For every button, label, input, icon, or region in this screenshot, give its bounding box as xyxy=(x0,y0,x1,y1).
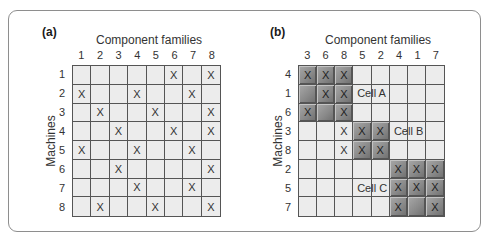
matrix-cell xyxy=(426,122,444,141)
matrix-cell xyxy=(165,179,183,198)
matrix-cell xyxy=(183,122,201,141)
matrix-cell: X xyxy=(73,141,91,160)
matrix-cell: X xyxy=(426,160,444,179)
panel-a-matrix: XXXXXXXXXXXXXXXXXXXXX xyxy=(72,65,221,217)
column-label: 4 xyxy=(390,49,408,61)
matrix-cell xyxy=(390,104,408,123)
matrix-cell xyxy=(335,160,353,179)
matrix-cell xyxy=(426,141,444,160)
matrix-cell xyxy=(73,197,91,216)
matrix-cell xyxy=(147,141,165,160)
matrix-cell xyxy=(110,179,128,198)
matrix-cell xyxy=(165,197,183,216)
matrix-cell: X xyxy=(202,160,220,179)
column-label: 7 xyxy=(184,49,203,61)
matrix-cell xyxy=(91,85,109,104)
matrix-cell xyxy=(128,160,146,179)
matrix-cell xyxy=(91,141,109,160)
matrix-cell xyxy=(147,160,165,179)
matrix-cell xyxy=(110,104,128,123)
panel-b-y-title: Machines xyxy=(271,115,285,166)
matrix-cell: X xyxy=(183,179,201,198)
row-label: 3 xyxy=(282,125,294,137)
matrix-cell xyxy=(299,160,317,179)
row-label: 5 xyxy=(282,182,294,194)
matrix-cell: X xyxy=(299,104,317,123)
matrix-cell xyxy=(390,66,408,85)
matrix-cell: X xyxy=(390,160,408,179)
matrix-cell xyxy=(408,197,426,216)
row-label: 2 xyxy=(56,87,68,99)
matrix-cell: X xyxy=(73,85,91,104)
column-label: 6 xyxy=(165,49,184,61)
matrix-cell xyxy=(408,104,426,123)
matrix-cell xyxy=(165,104,183,123)
row-label: 1 xyxy=(282,87,294,99)
column-label: 5 xyxy=(353,49,371,61)
matrix-cell: X xyxy=(317,85,335,104)
matrix-cell xyxy=(353,104,371,123)
row-label: 8 xyxy=(282,144,294,156)
row-label: 2 xyxy=(282,163,294,175)
matrix-cell: X xyxy=(408,160,426,179)
matrix-cell xyxy=(353,66,371,85)
matrix-cell xyxy=(372,197,390,216)
panel-a-y-title: Machines xyxy=(44,115,58,166)
matrix-cell xyxy=(317,179,335,198)
matrix-cell: X xyxy=(110,122,128,141)
matrix-cell xyxy=(299,85,317,104)
column-label: 6 xyxy=(316,49,334,61)
matrix-cell xyxy=(73,179,91,198)
column-label: 7 xyxy=(427,49,445,61)
matrix-cell xyxy=(317,104,335,123)
matrix-cell xyxy=(91,160,109,179)
row-label: 7 xyxy=(56,182,68,194)
matrix-cell: X xyxy=(202,197,220,216)
matrix-cell: X xyxy=(426,179,444,198)
matrix-cell xyxy=(110,85,128,104)
matrix-cell xyxy=(335,197,353,216)
matrix-cell xyxy=(73,66,91,85)
matrix-cell xyxy=(299,197,317,216)
matrix-cell: X xyxy=(335,122,353,141)
matrix-cell: X xyxy=(147,197,165,216)
matrix-cell xyxy=(147,85,165,104)
matrix-cell: X xyxy=(165,122,183,141)
matrix-cell xyxy=(353,197,371,216)
matrix-cell xyxy=(299,122,317,141)
matrix-cell: X xyxy=(183,141,201,160)
matrix-cell xyxy=(128,197,146,216)
matrix-cell xyxy=(73,104,91,123)
matrix-cell: X xyxy=(91,197,109,216)
matrix-cell: X xyxy=(128,179,146,198)
matrix-cell xyxy=(390,85,408,104)
matrix-cell: X xyxy=(202,104,220,123)
matrix-cell xyxy=(73,122,91,141)
matrix-cell xyxy=(317,197,335,216)
matrix-cell: X xyxy=(335,66,353,85)
cell-group-label: Cell C xyxy=(357,182,387,194)
matrix-cell: X xyxy=(299,66,317,85)
matrix-cell: X xyxy=(165,66,183,85)
matrix-cell: X xyxy=(390,197,408,216)
matrix-cell xyxy=(91,179,109,198)
matrix-cell: X xyxy=(183,85,201,104)
matrix-cell: X xyxy=(110,160,128,179)
cell-group-label: Cell A xyxy=(357,87,386,99)
matrix-cell xyxy=(408,85,426,104)
column-label: 4 xyxy=(128,49,147,61)
matrix-cell: X xyxy=(335,85,353,104)
row-label: 8 xyxy=(56,201,68,213)
column-label: 2 xyxy=(91,49,110,61)
matrix-cell: X xyxy=(372,122,390,141)
matrix-cell xyxy=(183,66,201,85)
matrix-cell xyxy=(183,104,201,123)
row-label: 5 xyxy=(56,144,68,156)
matrix-cell: X xyxy=(390,179,408,198)
matrix-cell xyxy=(165,141,183,160)
column-label: 3 xyxy=(109,49,128,61)
row-label: 4 xyxy=(282,68,294,80)
matrix-cell xyxy=(353,160,371,179)
matrix-cell xyxy=(317,160,335,179)
matrix-cell xyxy=(128,122,146,141)
